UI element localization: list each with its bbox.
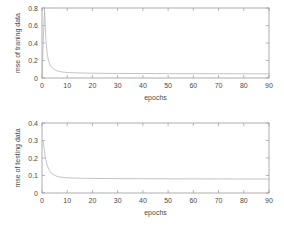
x-tick-label: 30 (114, 197, 122, 204)
figure-container: 010203040506070809000.20.40.60.8epochsms… (0, 0, 284, 230)
x-tick-label: 70 (215, 82, 223, 89)
y-tick-label: 0.1 (28, 172, 38, 179)
y-tick-label: 0.2 (28, 57, 38, 64)
x-tick-label: 90 (265, 197, 273, 204)
x-tick-label: 20 (89, 197, 97, 204)
x-axis-title: epochs (144, 209, 167, 217)
testing-mse-plot: 010203040506070809000.10.20.30.4epochsms… (0, 115, 284, 230)
x-tick-label: 0 (40, 197, 44, 204)
x-tick-label: 10 (63, 82, 71, 89)
x-tick-label: 60 (189, 82, 197, 89)
x-tick-label: 50 (164, 82, 172, 89)
y-tick-label: 0.2 (28, 155, 38, 162)
x-tick-label: 70 (215, 197, 223, 204)
x-tick-label: 50 (164, 197, 172, 204)
x-tick-label: 80 (240, 82, 248, 89)
chart-panel-testing: 010203040506070809000.10.20.30.4epochsms… (0, 115, 284, 230)
x-tick-label: 90 (265, 82, 273, 89)
x-tick-label: 20 (89, 82, 97, 89)
y-tick-label: 0.4 (28, 40, 38, 47)
y-tick-label: 0.6 (28, 22, 38, 29)
x-tick-label: 30 (114, 82, 122, 89)
y-tick-label: 0.4 (28, 120, 38, 127)
training-mse-plot: 010203040506070809000.20.40.60.8epochsms… (0, 0, 284, 115)
y-tick-label: 0.8 (28, 5, 38, 12)
data-series-line (42, 141, 269, 180)
y-tick-label: 0 (34, 75, 38, 82)
y-tick-label: 0.3 (28, 137, 38, 144)
x-tick-label: 40 (139, 197, 147, 204)
y-tick-label: 0 (34, 190, 38, 197)
x-tick-label: 10 (63, 197, 71, 204)
x-tick-label: 0 (40, 82, 44, 89)
x-tick-label: 40 (139, 82, 147, 89)
x-tick-label: 60 (189, 197, 197, 204)
x-tick-label: 80 (240, 197, 248, 204)
y-axis-title: mse of traning data (14, 13, 22, 73)
x-axis-title: epochs (144, 94, 167, 102)
data-series-line (42, 8, 269, 78)
chart-panel-training: 010203040506070809000.20.40.60.8epochsms… (0, 0, 284, 115)
y-axis-title: mse of testing data (14, 128, 22, 187)
